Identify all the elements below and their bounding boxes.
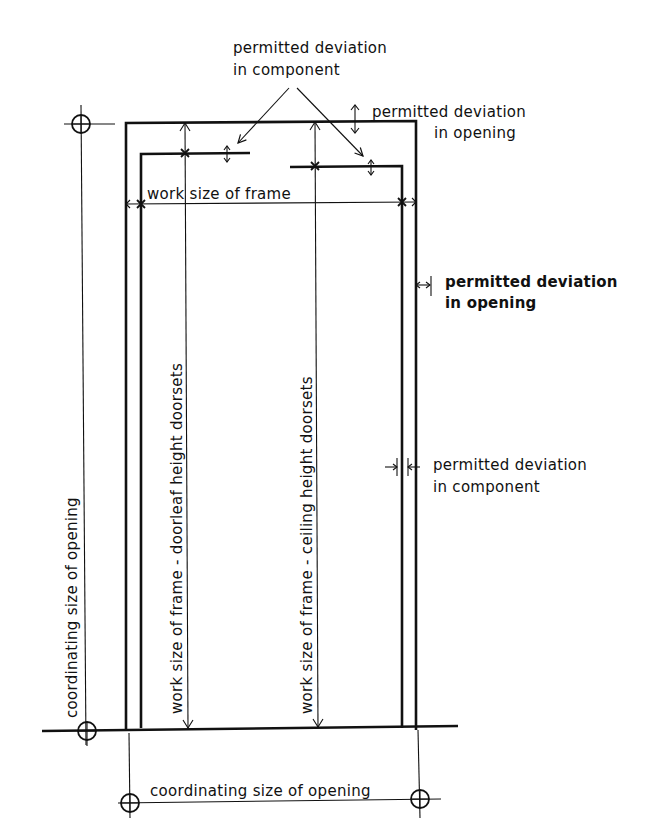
label-top-opening-line1: permitted deviation [372,103,526,121]
label-coord-width: coordinating size of opening [150,782,371,800]
datum-circle-bottom-under-left-icon [121,794,139,812]
label-right-opening-line1: permitted deviation [445,273,618,291]
label-top-component-line2: in component [233,61,340,79]
double-arrow-icon [416,276,431,296]
label-doorleaf-height: work size of frame - doorleaf height doo… [168,363,186,714]
label-right-opening-line2: in opening [445,294,537,312]
frame-outline-doorleaf [141,153,250,728]
datum-circle-bottom-under-right-icon [411,790,429,808]
double-arrow-icon [351,105,359,133]
label-top-opening-line2: in opening [434,124,516,142]
label-right-component-line1: permitted deviation [433,456,587,474]
leader-arrow [238,88,289,143]
coord-height-dimension-line [81,105,86,745]
door-frame-tolerance-drawing: permitted deviation in component permitt… [0,0,654,839]
label-right-component-line2: in component [433,478,540,496]
datum-circle-bottom-left-icon [78,722,96,746]
label-ceiling-height: work size of frame - ceiling height door… [298,376,316,714]
datum-circle-top-left-icon [72,115,90,133]
floor-line [42,726,458,731]
label-coord-height: coordinating size of opening [63,497,81,718]
label-frame-width: work size of frame [147,185,291,203]
label-top-component-line1: permitted deviation [233,39,387,57]
